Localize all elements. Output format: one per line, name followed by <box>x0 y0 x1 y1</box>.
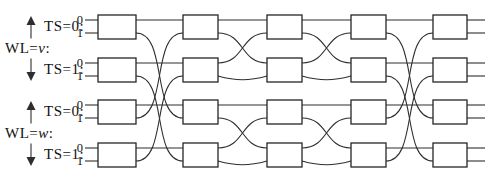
wire-cross <box>302 33 351 63</box>
switch-box <box>351 100 386 124</box>
wire-cross <box>218 118 267 148</box>
switch-box <box>351 15 386 39</box>
port-label-1: 1 <box>69 112 83 125</box>
switch-box <box>183 15 218 39</box>
switch-box <box>433 100 467 124</box>
wl-prefix: WL= <box>5 125 38 141</box>
wire-straight <box>218 76 267 80</box>
port-label-1: 1 <box>69 155 83 168</box>
wire-straight <box>302 76 351 80</box>
wire-straight <box>218 161 267 165</box>
wire-straight <box>302 161 351 165</box>
down-arrow-icon <box>27 157 36 166</box>
switch-box <box>267 58 302 82</box>
switch-box <box>433 58 467 82</box>
switch-box <box>267 143 302 167</box>
up-arrow-icon <box>27 16 36 25</box>
port-label-0: 0 <box>69 99 83 112</box>
switch-box <box>98 58 136 82</box>
trellis-butterfly-diagram: WL=v: WL=w: TS=0: TS=1: TS=0: TS=1: 0 1 … <box>0 0 486 179</box>
wordline-label-w: WL=w: <box>5 126 53 141</box>
switch-box <box>433 15 467 39</box>
wl-variable: w <box>38 125 49 141</box>
wl-colon: : <box>49 125 54 141</box>
switch-box <box>98 143 136 167</box>
port-label-1: 1 <box>69 27 83 40</box>
port-label-0: 0 <box>69 57 83 70</box>
switch-box <box>98 15 136 39</box>
switch-box <box>183 58 218 82</box>
port-label-0: 0 <box>69 142 83 155</box>
switch-box <box>433 143 467 167</box>
switch-box <box>98 100 136 124</box>
switch-box <box>267 100 302 124</box>
switch-box <box>351 143 386 167</box>
port-label-0: 0 <box>69 14 83 27</box>
switch-box <box>267 15 302 39</box>
wordline-label-v: WL=v: <box>5 41 50 56</box>
up-arrow-icon <box>27 101 36 110</box>
wire-cross <box>218 33 267 63</box>
port-label-1: 1 <box>69 70 83 83</box>
switch-box <box>183 143 218 167</box>
wl-prefix: WL= <box>5 40 38 56</box>
wire-cross <box>302 118 351 148</box>
switch-box <box>183 100 218 124</box>
down-arrow-icon <box>27 72 36 81</box>
wl-colon: : <box>45 40 50 56</box>
switch-box <box>351 58 386 82</box>
